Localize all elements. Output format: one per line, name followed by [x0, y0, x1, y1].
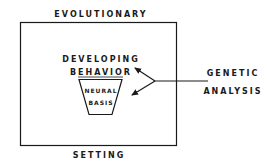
- diagram-canvas: EVOLUTIONARY SETTING DEVELOPING BEHAVIOR…: [0, 0, 267, 163]
- arrow-to-behavior: [135, 68, 155, 81]
- genetic-label: GENETIC: [207, 69, 260, 78]
- arrow-to-neural-basis: [132, 81, 155, 95]
- analysis-label: ANALYSIS: [203, 87, 262, 96]
- developing-label: DEVELOPING: [62, 55, 139, 64]
- neural-basis-trapezoid: [79, 80, 122, 115]
- evolutionary-setting-box: [21, 23, 177, 146]
- setting-label: SETTING: [73, 151, 126, 160]
- behavior-label: BEHAVIOR: [70, 68, 132, 77]
- evolutionary-label: EVOLUTIONARY: [54, 10, 147, 19]
- basis-label: BASIS: [88, 99, 113, 106]
- neural-label: NEURAL: [84, 87, 117, 94]
